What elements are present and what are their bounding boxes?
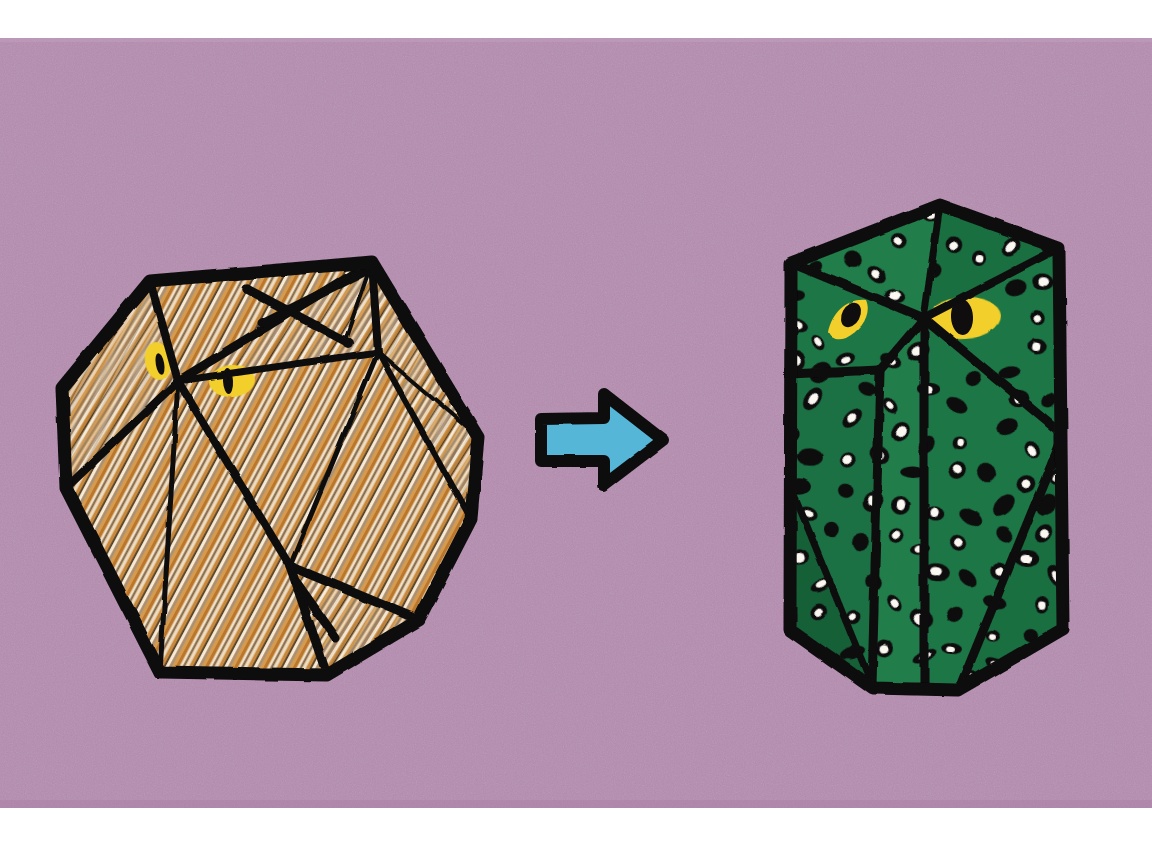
owl-transformation-illustration (0, 0, 1152, 847)
owl-right-green-polyhedron[interactable] (770, 190, 1080, 710)
illustration-stage (0, 0, 1152, 847)
